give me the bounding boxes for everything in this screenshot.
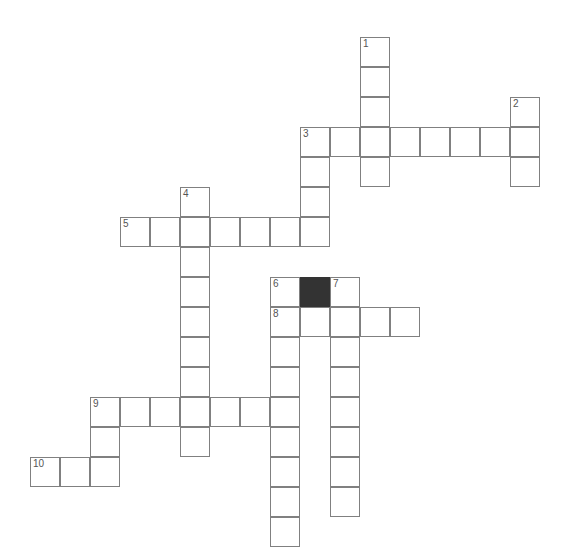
numbered-cell[interactable]: 7 — [330, 277, 360, 307]
letter-cell[interactable] — [330, 127, 360, 157]
letter-cell[interactable] — [360, 157, 390, 187]
cell-number: 3 — [303, 128, 309, 140]
letter-cell[interactable] — [180, 247, 210, 277]
letter-cell[interactable] — [300, 187, 330, 217]
letter-cell[interactable] — [360, 307, 390, 337]
letter-cell[interactable] — [120, 397, 150, 427]
letter-cell[interactable] — [270, 427, 300, 457]
letter-cell[interactable] — [180, 337, 210, 367]
cell-number: 9 — [93, 398, 99, 410]
letter-cell[interactable] — [300, 307, 330, 337]
numbered-cell[interactable]: 4 — [180, 187, 210, 217]
letter-cell[interactable] — [90, 457, 120, 487]
letter-cell[interactable] — [180, 397, 210, 427]
letter-cell[interactable] — [330, 397, 360, 427]
letter-cell[interactable] — [210, 397, 240, 427]
letter-cell[interactable] — [360, 97, 390, 127]
letter-cell[interactable] — [330, 457, 360, 487]
letter-cell[interactable] — [150, 217, 180, 247]
letter-cell[interactable] — [90, 427, 120, 457]
letter-cell[interactable] — [390, 127, 420, 157]
numbered-cell[interactable]: 10 — [30, 457, 60, 487]
cell-number: 4 — [183, 188, 189, 200]
letter-cell[interactable] — [270, 367, 300, 397]
numbered-cell[interactable]: 5 — [120, 217, 150, 247]
letter-cell[interactable] — [330, 487, 360, 517]
letter-cell[interactable] — [60, 457, 90, 487]
crossword-grid[interactable]: 12345678910 — [0, 0, 561, 551]
letter-cell[interactable] — [210, 217, 240, 247]
letter-cell[interactable] — [270, 337, 300, 367]
letter-cell[interactable] — [330, 337, 360, 367]
letter-cell[interactable] — [180, 307, 210, 337]
numbered-cell[interactable]: 2 — [510, 97, 540, 127]
letter-cell[interactable] — [510, 157, 540, 187]
letter-cell[interactable] — [510, 127, 540, 157]
numbered-cell[interactable]: 9 — [90, 397, 120, 427]
numbered-cell[interactable]: 1 — [360, 37, 390, 67]
letter-cell[interactable] — [240, 217, 270, 247]
letter-cell[interactable] — [480, 127, 510, 157]
letter-cell[interactable] — [180, 367, 210, 397]
crossword-puzzle: 12345678910 — [0, 0, 561, 551]
letter-cell[interactable] — [330, 367, 360, 397]
letter-cell[interactable] — [180, 427, 210, 457]
letter-cell[interactable] — [180, 217, 210, 247]
cell-number: 5 — [123, 218, 129, 230]
letter-cell[interactable] — [450, 127, 480, 157]
numbered-cell[interactable]: 6 — [270, 277, 300, 307]
letter-cell[interactable] — [270, 517, 300, 547]
cell-number: 10 — [33, 458, 44, 470]
letter-cell[interactable] — [240, 397, 270, 427]
letter-cell[interactable] — [270, 217, 300, 247]
numbered-cell[interactable]: 3 — [300, 127, 330, 157]
letter-cell[interactable] — [300, 217, 330, 247]
letter-cell[interactable] — [150, 397, 180, 427]
numbered-cell[interactable]: 8 — [270, 307, 300, 337]
letter-cell[interactable] — [180, 277, 210, 307]
letter-cell[interactable] — [270, 397, 300, 427]
cell-number: 8 — [273, 308, 279, 320]
letter-cell[interactable] — [300, 157, 330, 187]
cell-number: 7 — [333, 278, 339, 290]
letter-cell[interactable] — [390, 307, 420, 337]
letter-cell[interactable] — [360, 127, 390, 157]
cell-number: 2 — [513, 98, 519, 110]
letter-cell[interactable] — [420, 127, 450, 157]
block-cell — [300, 277, 330, 307]
letter-cell[interactable] — [330, 427, 360, 457]
letter-cell[interactable] — [330, 307, 360, 337]
letter-cell[interactable] — [270, 487, 300, 517]
cell-number: 6 — [273, 278, 279, 290]
letter-cell[interactable] — [270, 457, 300, 487]
letter-cell[interactable] — [360, 67, 390, 97]
cell-number: 1 — [363, 38, 369, 50]
